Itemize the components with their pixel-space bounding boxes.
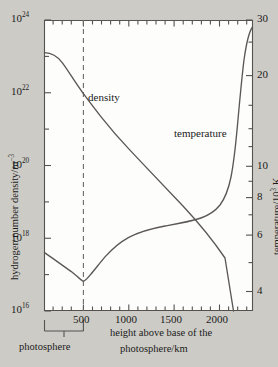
y-axis-right-major-ticks [246, 20, 253, 292]
x-tick-label-1500: 1500 [160, 313, 182, 325]
x-tick-label-500: 500 [73, 313, 90, 325]
temperature-curve-label: temperature [174, 127, 227, 139]
density-curve-label: density [88, 91, 120, 103]
y-left-tick-label-1e22: 1022 [11, 85, 29, 97]
y-axis-right-title: temperature/103 K [271, 178, 278, 255]
y-right-tick-label-6: 6 [257, 228, 263, 240]
x-axis-title-line2: photosphere/km [120, 343, 188, 354]
y-right-tick-label-8: 8 [257, 190, 263, 202]
x-tick-label-2000: 2000 [206, 313, 228, 325]
x-axis-title-line1: height above base of the [110, 327, 212, 338]
y-right-tick-label-20: 20 [257, 68, 268, 80]
axis-frame [44, 20, 253, 311]
y-axis-left-title: hydrogen number density/m−3 [9, 154, 20, 280]
figure-root: 1024 1022 1020 1018 1016 30 20 10 8 6 4 … [0, 0, 278, 367]
temperature-curve [45, 27, 253, 281]
y-right-tick-label-4: 4 [257, 284, 263, 296]
chart-canvas [0, 0, 278, 367]
y-left-tick-label-1e24: 1024 [11, 12, 29, 24]
y-right-tick-label-10: 10 [257, 159, 268, 171]
y-axis-left-major-ticks [45, 20, 52, 311]
x-tick-label-1000: 1000 [115, 313, 137, 325]
y-left-tick-label-1e16: 1016 [11, 303, 29, 315]
y-right-tick-label-30: 30 [257, 12, 268, 24]
photosphere-bracket-label: photosphere [19, 341, 70, 352]
